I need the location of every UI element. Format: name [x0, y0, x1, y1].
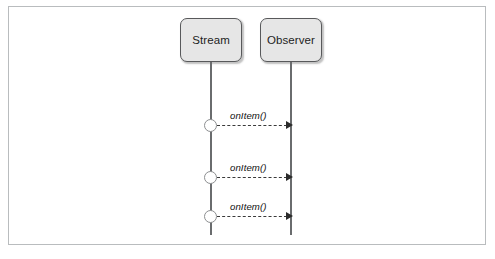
participant-box-stream: Stream	[180, 18, 242, 62]
message-3: onItem()	[204, 202, 299, 224]
message-origin-circle-icon	[204, 171, 217, 184]
message-arrowhead-icon	[286, 212, 293, 220]
message-arrowhead-icon	[286, 173, 293, 181]
message-dashed-line	[217, 177, 287, 178]
sequence-diagram-canvas: Stream Observer onItem() onItem() onItem…	[0, 0, 495, 259]
participant-box-observer: Observer	[260, 18, 322, 62]
message-2: onItem()	[204, 163, 299, 185]
message-label-1: onItem()	[230, 110, 267, 121]
message-origin-circle-icon	[204, 119, 217, 132]
message-label-3: onItem()	[230, 201, 267, 212]
message-origin-circle-icon	[204, 210, 217, 223]
message-dashed-line	[217, 125, 287, 126]
participant-label-stream: Stream	[192, 34, 230, 46]
message-arrowhead-icon	[286, 121, 293, 129]
message-label-2: onItem()	[230, 162, 267, 173]
participant-label-observer: Observer	[267, 34, 315, 46]
message-1: onItem()	[204, 111, 299, 133]
message-dashed-line	[217, 216, 287, 217]
